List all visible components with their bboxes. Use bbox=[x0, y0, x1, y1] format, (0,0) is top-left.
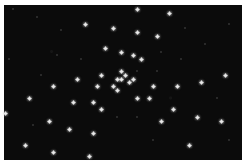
star bbox=[52, 151, 55, 154]
faint-star bbox=[160, 51, 162, 53]
star bbox=[112, 27, 115, 30]
faint-star bbox=[184, 27, 186, 29]
faint-star bbox=[8, 58, 10, 60]
star bbox=[136, 31, 139, 34]
star bbox=[52, 85, 55, 88]
star bbox=[148, 97, 151, 100]
star bbox=[84, 23, 87, 26]
faint-star bbox=[12, 8, 14, 10]
faint-star bbox=[36, 16, 38, 18]
star bbox=[120, 51, 123, 54]
star bbox=[224, 74, 227, 77]
star bbox=[136, 8, 139, 11]
faint-star bbox=[204, 43, 206, 45]
star bbox=[200, 81, 203, 84]
faint-star bbox=[228, 139, 230, 141]
star bbox=[24, 144, 27, 147]
star bbox=[76, 78, 79, 81]
star bbox=[68, 128, 71, 131]
star bbox=[88, 155, 91, 158]
star bbox=[220, 120, 223, 123]
star bbox=[176, 85, 179, 88]
faint-star bbox=[228, 23, 230, 25]
star bbox=[116, 89, 119, 92]
faint-star bbox=[156, 70, 158, 72]
star bbox=[140, 58, 143, 61]
star bbox=[120, 78, 123, 81]
star bbox=[48, 120, 51, 123]
faint-star bbox=[56, 54, 58, 56]
star bbox=[92, 101, 95, 104]
faint-star bbox=[60, 29, 62, 31]
star bbox=[72, 101, 75, 104]
star-field bbox=[4, 5, 242, 160]
star bbox=[168, 12, 171, 15]
star bbox=[196, 116, 199, 119]
star bbox=[160, 120, 163, 123]
faint-star bbox=[136, 116, 138, 118]
star bbox=[152, 85, 155, 88]
star bbox=[172, 108, 175, 111]
star bbox=[128, 81, 131, 84]
faint-star bbox=[152, 139, 154, 141]
faint-star bbox=[40, 74, 42, 76]
star bbox=[100, 108, 103, 111]
star bbox=[124, 74, 127, 77]
star bbox=[132, 54, 135, 57]
star bbox=[120, 70, 123, 73]
star bbox=[156, 35, 159, 38]
faint-star bbox=[116, 116, 118, 118]
star bbox=[112, 85, 115, 88]
faint-star bbox=[80, 58, 82, 60]
star bbox=[4, 112, 7, 115]
star bbox=[188, 144, 191, 147]
faint-star bbox=[180, 58, 182, 60]
star bbox=[132, 78, 135, 81]
faint-star bbox=[216, 97, 218, 99]
faint-star bbox=[136, 70, 138, 72]
star bbox=[92, 132, 95, 135]
faint-star bbox=[32, 124, 34, 126]
star bbox=[100, 74, 103, 77]
star bbox=[28, 97, 31, 100]
star bbox=[136, 97, 139, 100]
star bbox=[104, 47, 107, 50]
star bbox=[96, 85, 99, 88]
